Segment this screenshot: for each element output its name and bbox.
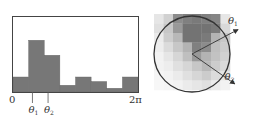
arrow-label-theta-1: θ1 bbox=[228, 15, 238, 27]
patch-cell bbox=[202, 43, 212, 53]
histogram-bar bbox=[13, 77, 29, 92]
patch-cell bbox=[154, 14, 164, 24]
patch-cell bbox=[192, 24, 202, 34]
patch-cell bbox=[183, 33, 193, 43]
patch-cell bbox=[202, 52, 212, 62]
histogram-bar bbox=[107, 88, 123, 92]
patch-cell bbox=[211, 62, 221, 72]
patch-cell bbox=[154, 24, 164, 34]
patch-cell bbox=[211, 52, 221, 62]
histogram-bar bbox=[44, 55, 60, 92]
patch-cell bbox=[173, 52, 183, 62]
patch-cell bbox=[164, 43, 174, 53]
marker-label-theta-1: θ1 bbox=[28, 104, 38, 116]
histogram-bar bbox=[76, 77, 92, 92]
patch-cell bbox=[221, 81, 231, 91]
patch-cell bbox=[154, 81, 164, 91]
patch-cell bbox=[164, 33, 174, 43]
patch-cell bbox=[192, 43, 202, 53]
patch-cell bbox=[202, 71, 212, 81]
patch-cell bbox=[192, 62, 202, 72]
image-patch-grid bbox=[154, 14, 230, 90]
patch-cell bbox=[164, 81, 174, 91]
orientation-histogram: θ1θ2 0 2π bbox=[0, 0, 145, 127]
patch-cell bbox=[154, 52, 164, 62]
patch-cell bbox=[173, 71, 183, 81]
arrow-label-theta-2: θ2 bbox=[225, 71, 235, 83]
patch-cell bbox=[183, 62, 193, 72]
patch-cell bbox=[192, 71, 202, 81]
patch-cell bbox=[173, 24, 183, 34]
patch-cell bbox=[173, 43, 183, 53]
histogram-bars bbox=[13, 40, 138, 92]
patch-cell bbox=[211, 71, 221, 81]
marker-label-theta-2: θ2 bbox=[44, 104, 54, 116]
x-tick-start: 0 bbox=[9, 94, 15, 105]
histogram-bar bbox=[29, 40, 45, 92]
patch-cell bbox=[173, 33, 183, 43]
patch-cell bbox=[183, 52, 193, 62]
patch-cell bbox=[183, 43, 193, 53]
patch-cell bbox=[183, 71, 193, 81]
patch-cell bbox=[164, 62, 174, 72]
patch-cell bbox=[173, 62, 183, 72]
patch-cell bbox=[183, 81, 193, 91]
patch-cell bbox=[192, 81, 202, 91]
histogram-bar bbox=[91, 82, 107, 93]
patch-cell bbox=[192, 33, 202, 43]
histogram-bar bbox=[122, 77, 138, 92]
histogram-markers: θ1θ2 bbox=[28, 92, 54, 116]
patch-cell bbox=[211, 43, 221, 53]
patch-cell bbox=[183, 24, 193, 34]
patch-cell bbox=[164, 71, 174, 81]
patch-cell bbox=[202, 33, 212, 43]
orientation-patch-diagram: θ1θ2 bbox=[140, 0, 255, 127]
patch-cell bbox=[202, 24, 212, 34]
histogram-bar bbox=[60, 85, 76, 92]
patch-cell bbox=[164, 52, 174, 62]
